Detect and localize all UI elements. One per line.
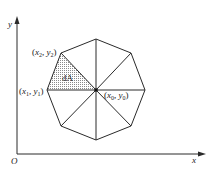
octagon-area-diagram: y x O (x2, y2) (x1, y1) (x0, y0) dA <box>0 0 211 170</box>
y-axis-label: y <box>7 19 12 29</box>
x-axis-label: x <box>191 155 196 165</box>
x-axis-arrow-icon <box>198 152 206 157</box>
center-point <box>94 88 98 92</box>
area-element-label: dA <box>62 73 74 83</box>
origin-label: O <box>11 156 18 166</box>
point-p1-label: (x1, y1) <box>19 86 44 97</box>
center-point-label: (x0, y0) <box>104 90 129 101</box>
point-p2-label: (x2, y2) <box>32 47 57 58</box>
y-axis-arrow-icon <box>15 16 20 24</box>
